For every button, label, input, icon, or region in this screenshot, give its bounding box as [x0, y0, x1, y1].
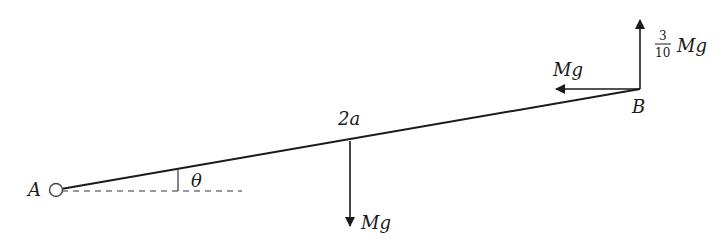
rod-length-label: 2a	[337, 108, 360, 129]
point-A-label: A	[26, 179, 41, 200]
vertical-force-B-label: Mg	[676, 35, 707, 56]
hinge-A-icon	[50, 184, 63, 197]
fraction-numerator: 3	[659, 29, 667, 43]
statics-diagram: A θ 2a Mg Mg B 3 10 Mg	[0, 0, 722, 244]
weight-force-label: Mg	[360, 212, 391, 233]
fraction-denominator: 10	[655, 46, 670, 60]
point-B-label: B	[631, 96, 645, 117]
angle-theta-label: θ	[191, 170, 202, 191]
horizontal-force-B-label: Mg	[552, 59, 583, 80]
